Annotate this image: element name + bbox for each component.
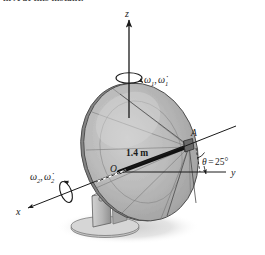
svg-text:ω1,ω̇1: ω1,ω̇1 bbox=[144, 74, 168, 87]
svg-text:θ=25°: θ=25° bbox=[202, 157, 229, 167]
theta-symbol: θ bbox=[202, 157, 207, 167]
axis-label-z: z bbox=[124, 8, 129, 19]
point-label-O: O bbox=[110, 164, 117, 174]
omega1-symbol: ω bbox=[144, 74, 151, 85]
svg-text:ω2,ω̇2: ω2,ω̇2 bbox=[30, 171, 55, 184]
figure-canvas: in A at this instant. bbox=[0, 0, 265, 255]
omega1-dot-subscript: 1 bbox=[165, 80, 168, 87]
omega2-label-group: ω2,ω̇2 bbox=[30, 171, 55, 184]
omega2-symbol: ω bbox=[30, 171, 37, 182]
antenna-diagram: z y x O A 1.4 m ω1,ω̇1 ω2,ω̇2 θ=25° bbox=[0, 0, 265, 255]
point-label-A: A bbox=[190, 128, 197, 138]
axis-label-y: y bbox=[230, 167, 236, 178]
angle-label-group: θ=25° bbox=[202, 157, 229, 167]
theta-equals: = bbox=[208, 157, 213, 167]
omega1-comma: , bbox=[154, 74, 157, 85]
theta-value: 25° bbox=[215, 157, 229, 167]
omega2-comma: , bbox=[40, 171, 43, 182]
omega1-label-group: ω1,ω̇1 bbox=[144, 74, 168, 87]
omega2-dot-subscript: 2 bbox=[51, 177, 55, 184]
omega2-rotation-arrow bbox=[57, 180, 75, 204]
dimension-label-length: 1.4 m bbox=[126, 148, 148, 158]
axis-label-x: x bbox=[15, 206, 21, 217]
